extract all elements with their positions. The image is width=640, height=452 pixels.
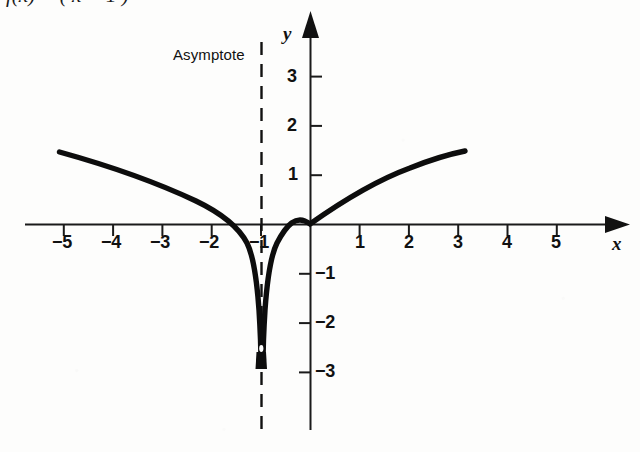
y-tick-label-minus1: −1: [315, 264, 335, 282]
x-tick-label-minus2: −2: [199, 233, 219, 251]
x-tick-label-2: 2: [404, 233, 414, 251]
x-tick-label-minus5: −5: [52, 233, 72, 251]
x-tick-label-minus4: −4: [101, 233, 121, 251]
y-axis-arrowhead: [302, 11, 319, 38]
curve-convergence-blob: [256, 352, 268, 369]
x-tick-label-4: 4: [502, 233, 512, 251]
x-tick-label-1: 1: [355, 233, 365, 251]
x-axis-arrowhead: [605, 216, 630, 233]
graph-figure: [0, 0, 640, 452]
x-tick-label-3: 3: [453, 233, 463, 251]
x-tick-label-5: 5: [551, 233, 561, 251]
y-tick-label-1: 1: [288, 165, 298, 183]
y-axis-label: y: [283, 24, 291, 43]
curve-blob-highlight: [259, 345, 263, 352]
asymptote-label: Asymptote: [173, 47, 245, 62]
x-tick-label-minus3: −3: [150, 233, 170, 251]
y-tick-label-minus3: −3: [315, 362, 335, 380]
y-tick-label-2: 2: [287, 116, 297, 134]
y-tick-label-3: 3: [287, 67, 297, 85]
x-tick-label-minus1: −1: [249, 233, 269, 251]
y-tick-label-minus2: −2: [315, 313, 335, 331]
curve-left-branch: [60, 152, 262, 366]
x-axis-label: x: [612, 234, 622, 253]
